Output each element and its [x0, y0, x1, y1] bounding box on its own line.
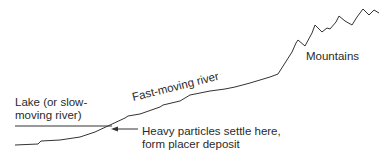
mountains-label: Mountains — [306, 50, 359, 63]
lake-label-line2: moving river) — [15, 109, 87, 122]
deposit-label-line1: Heavy particles settle here, — [142, 125, 281, 138]
placer-deposit-diagram: Lake (or slow- moving river) Fast-moving… — [0, 0, 379, 155]
deposit-label: Heavy particles settle here, form placer… — [142, 125, 281, 151]
lake-label-line1: Lake (or slow- — [15, 96, 87, 109]
deposit-label-line2: form placer deposit — [142, 138, 281, 151]
lake-label: Lake (or slow- moving river) — [15, 96, 87, 122]
arrow-head-icon — [111, 127, 118, 132]
